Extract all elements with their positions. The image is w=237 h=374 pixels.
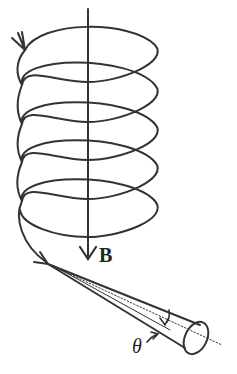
field-label-b: B xyxy=(99,244,112,267)
theta-arrow-lower-icon xyxy=(147,332,158,342)
angle-label-theta: θ xyxy=(132,335,142,358)
start-arrow-icon xyxy=(12,32,25,50)
helix-diagram xyxy=(0,0,237,374)
cone-axis-dotted xyxy=(48,264,222,345)
cone-upper-edge xyxy=(48,264,200,325)
cone-lower-edge xyxy=(48,264,185,348)
